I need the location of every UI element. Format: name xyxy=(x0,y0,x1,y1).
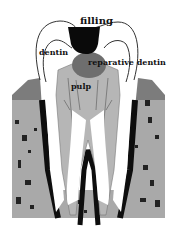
label-dentin: dentin xyxy=(39,48,68,56)
label-pulp: pulp xyxy=(71,82,91,90)
label-reparative-dentin: reparative dentin xyxy=(88,58,166,66)
label-filling: filling xyxy=(80,16,113,26)
filling xyxy=(68,27,100,54)
tooth-diagram: filling dentin reparative dentin pulp xyxy=(0,0,177,239)
tooth-illustration xyxy=(0,0,177,239)
